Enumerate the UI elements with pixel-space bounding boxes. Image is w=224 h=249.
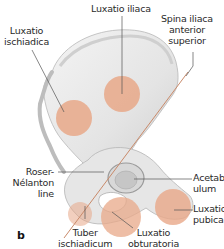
label-line: ischiadicum (58, 238, 112, 249)
label-line: Acetab- (193, 172, 224, 183)
label-line: ischiadica (4, 36, 49, 47)
label-line: obturatoria (128, 238, 179, 249)
label-line: pubica (193, 214, 224, 225)
panel-letter: b (17, 229, 25, 242)
label-spina-iliaca: Spina iliaca anterior superior (161, 13, 213, 46)
label-line: Roser- (4, 166, 54, 177)
label-tuber-ischiadicum: Tuber ischiadicum (58, 227, 112, 249)
label-line: Tuber (58, 227, 112, 238)
label-line: Luxatio (128, 227, 179, 238)
label-roser-nelaton: Roser- Nélanton line (4, 166, 54, 199)
label-acetabulum: Acetab- ulum (193, 172, 224, 194)
label-line: Nélanton (4, 177, 54, 188)
label-line: superior (161, 35, 213, 46)
luxatio-ischiadica-circle (56, 100, 92, 136)
label-line: Luxatio (4, 25, 49, 36)
label-line: ulum (193, 183, 224, 194)
label-line: Luxatio (193, 203, 224, 214)
label-line: Spina iliaca (161, 13, 213, 24)
label-luxatio-pubica: Luxatio pubica (193, 203, 224, 225)
label-line: line (4, 188, 54, 199)
label-line: anterior (161, 24, 213, 35)
label-luxatio-ischiadica: Luxatio ischiadica (4, 25, 49, 47)
label-luxatio-obturatoria: Luxatio obturatoria (128, 227, 179, 249)
label-luxatio-iliaca: Luxatio iliaca (91, 3, 151, 14)
luxatio-pubica-circle (155, 189, 191, 225)
